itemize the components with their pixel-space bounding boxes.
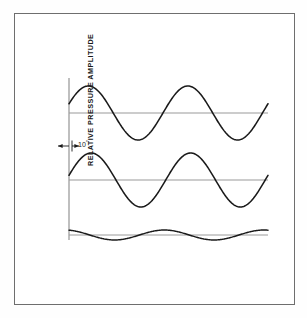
degree-symbol-icon: ° [86,139,88,145]
waveform-plot [0,0,307,318]
waveform-curves [69,86,268,240]
figure-page: RELATIVE PRESSURE AMPLITUDE 10° [0,0,307,318]
angle-annotation-label: 10° [78,138,88,149]
angle-annotation-value: 10 [78,141,86,148]
annotation-arrow-left-head [58,144,63,148]
